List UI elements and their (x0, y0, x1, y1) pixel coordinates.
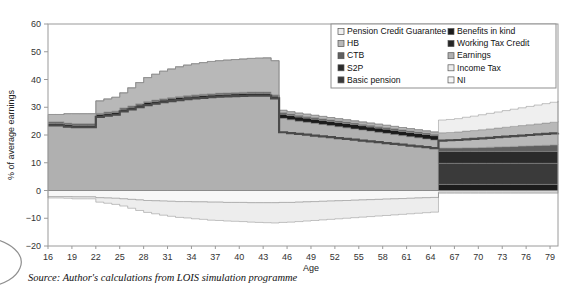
x-tick-label: 76 (521, 252, 531, 262)
legend-label: Benefits in kind (457, 26, 516, 36)
legend-label: Income Tax (457, 63, 501, 73)
x-tick-label: 37 (210, 252, 220, 262)
x-tick-label: 70 (473, 252, 483, 262)
x-tick-label: 22 (91, 252, 101, 262)
x-tick-label: 64 (425, 252, 435, 262)
legend-label: NI (457, 75, 466, 85)
y-tick-label: 60 (31, 19, 41, 29)
legend-swatch (448, 29, 454, 35)
legend-label: Basic pension (347, 75, 401, 85)
x-tick-label: 49 (306, 252, 316, 262)
decorative-swoosh (0, 236, 36, 288)
x-tick-label: 43 (258, 252, 268, 262)
legend-swatch (338, 41, 344, 47)
legend-swatch (448, 41, 454, 47)
y-tick-label: 10 (31, 158, 41, 168)
x-tick-label: 16 (43, 252, 53, 262)
legend-swatch (448, 65, 454, 71)
y-axis-title: % of average earnings (6, 89, 16, 180)
x-tick-label: 58 (378, 252, 388, 262)
x-tick-label: 40 (234, 252, 244, 262)
x-tick-label: 25 (115, 252, 125, 262)
x-tick-label: 52 (330, 252, 340, 262)
x-axis-title: Age (303, 263, 319, 273)
legend-label: HB (347, 38, 359, 48)
legend-item[interactable]: Working Tax Credit (448, 38, 530, 48)
y-tick-label: −10 (26, 213, 41, 223)
x-tick-label: 46 (282, 252, 292, 262)
x-tick-label: 34 (186, 252, 196, 262)
x-tick-label: 19 (67, 252, 77, 262)
y-tick-label: 30 (31, 102, 41, 112)
legend: Pension Credit GuaranteeHBCTBS2PBasic pe… (331, 24, 556, 88)
legend-label: Earnings (457, 50, 491, 60)
legend-swatch (338, 53, 344, 59)
figure-chart-lifetime-income: −20−100102030405060161922252831343740434… (0, 0, 568, 296)
legend-item[interactable]: Basic pension (338, 75, 401, 85)
legend-item[interactable]: Pension Credit Guarantee (338, 26, 447, 36)
y-tick-label: 0 (36, 186, 41, 196)
legend-swatch (338, 77, 344, 83)
y-tick-label: 40 (31, 75, 41, 85)
legend-label: Working Tax Credit (457, 38, 530, 48)
legend-label: S2P (347, 63, 364, 73)
chart-canvas: −20−100102030405060161922252831343740434… (0, 0, 568, 296)
y-tick-label: 50 (31, 47, 41, 57)
x-tick-label: 61 (402, 252, 412, 262)
x-tick-label: 28 (139, 252, 149, 262)
x-tick-label: 79 (545, 252, 555, 262)
x-tick-label: 67 (449, 252, 459, 262)
legend-label: CTB (347, 50, 364, 60)
legend-swatch (448, 77, 454, 83)
legend-swatch (448, 53, 454, 59)
legend-label: Pension Credit Guarantee (347, 26, 447, 36)
legend-item[interactable]: Income Tax (448, 63, 501, 73)
legend-swatch (338, 65, 344, 71)
legend-item[interactable]: Benefits in kind (448, 26, 516, 36)
x-tick-label: 55 (354, 252, 364, 262)
x-tick-label: 31 (163, 252, 173, 262)
x-tick-label: 73 (497, 252, 507, 262)
source-note: Source: Author's calculations from LOIS … (28, 272, 297, 283)
legend-swatch (338, 29, 344, 35)
y-tick-label: 20 (31, 130, 41, 140)
